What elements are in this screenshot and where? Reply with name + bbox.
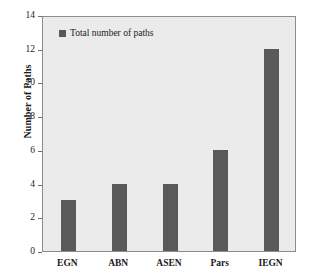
- y-axis-tick-label: 0: [30, 246, 35, 256]
- plot-area: Total number of paths: [42, 16, 296, 252]
- bar-asen: [163, 184, 178, 251]
- legend-swatch-icon: [59, 30, 66, 37]
- y-axis-tick-mark: [38, 252, 42, 253]
- bar-abn: [112, 184, 127, 251]
- y-axis-tick-label: 8: [30, 111, 35, 121]
- bar-chart-figure: Number of Paths 02468101214 Total number…: [0, 0, 313, 278]
- bar-egn: [61, 200, 76, 251]
- x-axis-tick-label: IEGN: [231, 258, 311, 268]
- bar-pars: [213, 150, 228, 251]
- y-axis-tick-label: 12: [26, 44, 36, 54]
- y-axis-tick-label: 10: [26, 77, 36, 87]
- chart-legend: Total number of paths: [59, 28, 154, 38]
- bar-iegn: [264, 49, 279, 251]
- y-axis-tick-label: 14: [26, 10, 36, 20]
- y-axis-tick-label: 6: [30, 145, 35, 155]
- y-axis-tick-label: 4: [30, 179, 35, 189]
- legend-label: Total number of paths: [70, 28, 154, 38]
- y-axis-tick-label: 2: [30, 212, 35, 222]
